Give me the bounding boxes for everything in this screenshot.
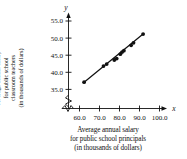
data-point xyxy=(141,32,145,36)
data-point xyxy=(82,80,86,84)
y-axis-variable-label: y xyxy=(63,3,68,12)
x-tick-label-90: 90.0 xyxy=(133,114,146,122)
x-tick-label-70: 70.0 xyxy=(93,114,106,122)
data-point xyxy=(122,49,126,53)
y-tick-label-35: 35.0 xyxy=(51,86,64,94)
x-axis-tick-labels: 60.0 70.0 80.0 90.0 100.0 xyxy=(73,114,168,122)
x-axis-arrowhead xyxy=(162,106,168,110)
x-tick-label-60: 60.0 xyxy=(73,114,86,122)
y-tick-label-55: 55.0 xyxy=(51,17,64,25)
data-point xyxy=(102,64,106,68)
x-tick-label-80: 80.0 xyxy=(113,114,126,122)
y-tick-label-40: 40.0 xyxy=(51,69,64,77)
y-axis-arrowhead xyxy=(66,13,70,19)
data-point xyxy=(105,62,109,66)
x-axis-title: Average annual salary for public school … xyxy=(34,126,182,154)
y-axis-tick-labels: 35.0 40.0 45.0 50.0 55.0 xyxy=(51,17,64,93)
data-point xyxy=(132,41,136,45)
y-tick-label-45: 45.0 xyxy=(51,52,64,60)
scatter-plot-figure: Average annual salary for public school … xyxy=(0,0,187,159)
x-axis-title-line-2: for public school principals xyxy=(34,135,182,144)
x-axis-variable-label: x xyxy=(171,104,176,113)
x-tick-label-100: 100.0 xyxy=(152,114,168,122)
x-axis-title-line-3: (in thousands of dollars) xyxy=(34,144,182,153)
y-tick-label-50: 50.0 xyxy=(51,35,64,43)
data-point xyxy=(115,57,119,61)
x-axis-title-line-1: Average annual salary xyxy=(34,126,182,135)
